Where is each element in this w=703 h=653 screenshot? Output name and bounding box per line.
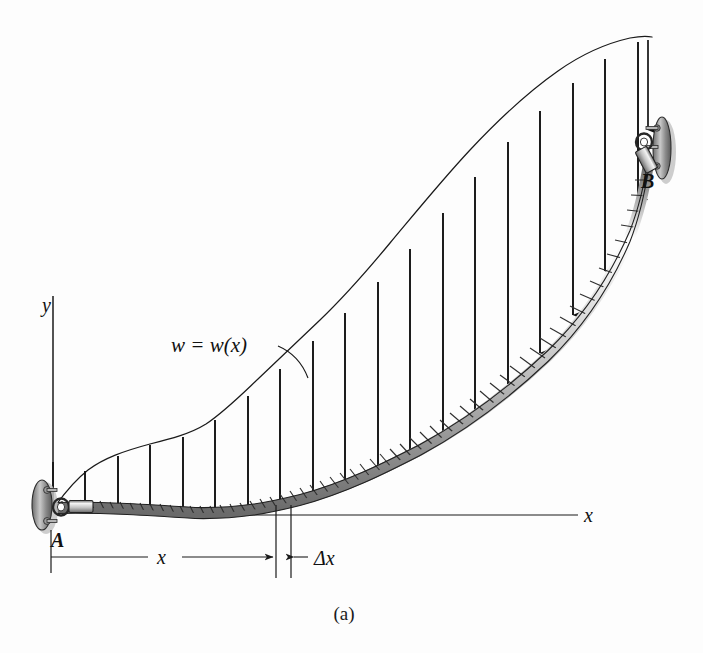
label-dimension-x: x xyxy=(156,546,166,568)
support-a xyxy=(32,480,93,534)
load-boundary-curve xyxy=(56,36,652,505)
load-label-leader-line xyxy=(278,346,308,378)
dimension-delta-x xyxy=(291,505,308,578)
cable-load-diagram: y x w = w(x) A B x Δx (a) xyxy=(0,0,703,653)
label-dimension-delta-x: Δx xyxy=(313,547,335,569)
label-support-b: B xyxy=(640,170,654,192)
label-support-a: A xyxy=(49,529,64,551)
label-x-axis: x xyxy=(583,504,593,526)
distributed-load-arrows xyxy=(53,40,648,511)
cable xyxy=(56,156,658,523)
label-y-axis: y xyxy=(40,294,51,317)
figure-caption: (a) xyxy=(333,603,354,625)
figure-root: y x w = w(x) A B x Δx (a) xyxy=(0,0,703,653)
label-load-function: w = w(x) xyxy=(171,333,247,357)
